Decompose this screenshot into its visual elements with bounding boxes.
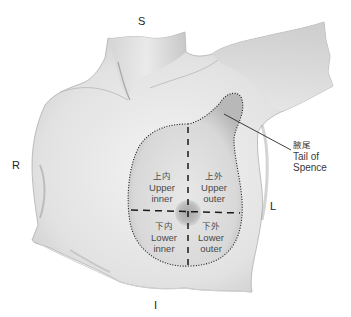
quadrant-upper-inner-en2: inner — [140, 193, 184, 204]
quadrant-lower-outer-en1: Lower — [189, 232, 233, 243]
left-label: L — [270, 201, 276, 212]
quadrant-lower-inner-en1: Lower — [142, 232, 186, 243]
quadrant-upper-outer-en1: Upper — [192, 182, 236, 193]
quadrant-lower-outer-cn: 下外 — [189, 221, 233, 232]
right-label: R — [12, 160, 20, 171]
quadrant-upper-inner-cn: 上内 — [140, 171, 184, 182]
tail-of-spence-en1: Tail of — [293, 151, 327, 162]
tail-of-spence-label: 腋尾 Tail of Spence — [293, 140, 327, 173]
quadrant-lower-inner: 下内 Lower inner — [142, 221, 186, 254]
inferior-label: I — [154, 300, 157, 311]
quadrant-upper-inner: 上内 Upper inner — [140, 171, 184, 204]
quadrant-lower-inner-en2: inner — [142, 243, 186, 254]
superior-label: S — [138, 16, 145, 27]
quadrant-upper-outer-cn: 上外 — [192, 171, 236, 182]
tail-of-spence-cn: 腋尾 — [293, 140, 327, 151]
quadrant-upper-outer: 上外 Upper outer — [192, 171, 236, 204]
breast-quadrant-diagram: S R L I 上内 Upper inner 上外 Upper outer 下内… — [0, 0, 351, 317]
quadrant-upper-outer-en2: outer — [192, 193, 236, 204]
quadrant-lower-outer: 下外 Lower outer — [189, 221, 233, 254]
tail-of-spence-en2: Spence — [293, 162, 327, 173]
quadrant-lower-inner-cn: 下内 — [142, 221, 186, 232]
left-axilla-shading — [262, 125, 267, 220]
quadrant-upper-inner-en1: Upper — [140, 182, 184, 193]
quadrant-lower-outer-en2: outer — [189, 243, 233, 254]
